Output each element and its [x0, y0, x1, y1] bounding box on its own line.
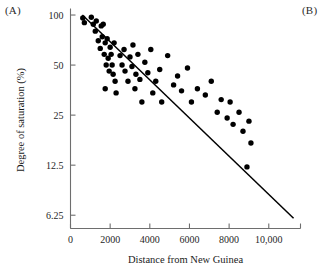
x-tick-label: 10,000	[255, 234, 283, 245]
data-point	[175, 73, 180, 78]
data-point	[224, 115, 229, 120]
data-point	[109, 62, 114, 67]
data-point	[117, 53, 122, 58]
data-point	[135, 52, 140, 57]
y-tick-label: 50	[54, 60, 64, 71]
data-point	[165, 53, 170, 58]
data-point	[130, 42, 135, 47]
data-point	[96, 38, 101, 43]
data-point	[227, 99, 232, 104]
data-point	[150, 90, 155, 95]
data-point	[103, 62, 108, 67]
y-tick-label: 100	[49, 10, 64, 21]
data-point	[145, 70, 150, 75]
y-axis-group: 100502512.56.25	[46, 9, 76, 229]
data-point	[230, 122, 235, 127]
data-point	[137, 77, 142, 82]
data-point	[119, 62, 124, 67]
data-point	[153, 78, 158, 83]
x-axis-title: Distance from New Guinea	[128, 254, 244, 265]
data-point	[203, 92, 208, 97]
data-point	[244, 164, 249, 169]
data-point	[159, 99, 164, 104]
data-point	[121, 47, 126, 52]
y-tick-label: 25	[54, 110, 64, 121]
x-tick-label: 6000	[179, 234, 199, 245]
data-point	[129, 64, 134, 69]
data-point	[80, 15, 85, 20]
data-point	[82, 20, 87, 25]
data-point	[171, 82, 176, 87]
y-tick-label: 6.25	[46, 210, 64, 221]
data-point	[108, 52, 113, 57]
data-point	[132, 86, 137, 91]
y-axis-ticks: 100502512.56.25	[46, 10, 76, 221]
data-point	[139, 99, 144, 104]
data-points	[80, 15, 254, 170]
data-point	[98, 46, 103, 51]
data-point	[111, 40, 116, 45]
x-axis-group: 0200040006000800010,000	[68, 224, 301, 245]
data-point	[127, 54, 132, 59]
x-tick-label: 4000	[140, 234, 160, 245]
data-point	[189, 99, 194, 104]
data-point	[218, 97, 223, 102]
data-point	[122, 68, 127, 73]
scatter-plot: 100502512.56.25 0200040006000800010,000 …	[0, 0, 326, 269]
data-point	[102, 52, 107, 57]
data-point	[101, 22, 106, 27]
data-point	[102, 86, 107, 91]
data-point	[107, 45, 112, 50]
data-point	[125, 78, 130, 83]
data-point	[89, 15, 94, 20]
data-point	[100, 34, 105, 39]
data-point	[157, 67, 162, 72]
data-point	[185, 65, 190, 70]
y-tick-label: 12.5	[46, 160, 64, 171]
data-point	[133, 72, 138, 77]
data-point	[236, 110, 241, 115]
data-point	[113, 90, 118, 95]
data-point	[215, 110, 220, 115]
y-axis-title: Degree of saturation (%)	[15, 67, 27, 172]
data-point	[94, 18, 99, 23]
data-point	[142, 60, 147, 65]
data-point	[240, 129, 245, 134]
data-point	[93, 28, 98, 33]
data-point	[195, 86, 200, 91]
data-point	[104, 36, 109, 41]
figure-panel-group: (A) (B) 100502512.56.25 0200040006000800…	[0, 0, 326, 269]
data-point	[246, 118, 251, 123]
x-tick-label: 0	[68, 234, 73, 245]
data-point	[248, 140, 253, 145]
x-tick-label: 2000	[100, 234, 120, 245]
x-tick-label: 8000	[219, 234, 239, 245]
data-point	[148, 47, 153, 52]
x-axis-ticks: 0200040006000800010,000	[68, 224, 301, 245]
data-point	[112, 78, 117, 83]
data-point	[179, 88, 184, 93]
data-point	[209, 78, 214, 83]
data-point	[110, 72, 115, 77]
